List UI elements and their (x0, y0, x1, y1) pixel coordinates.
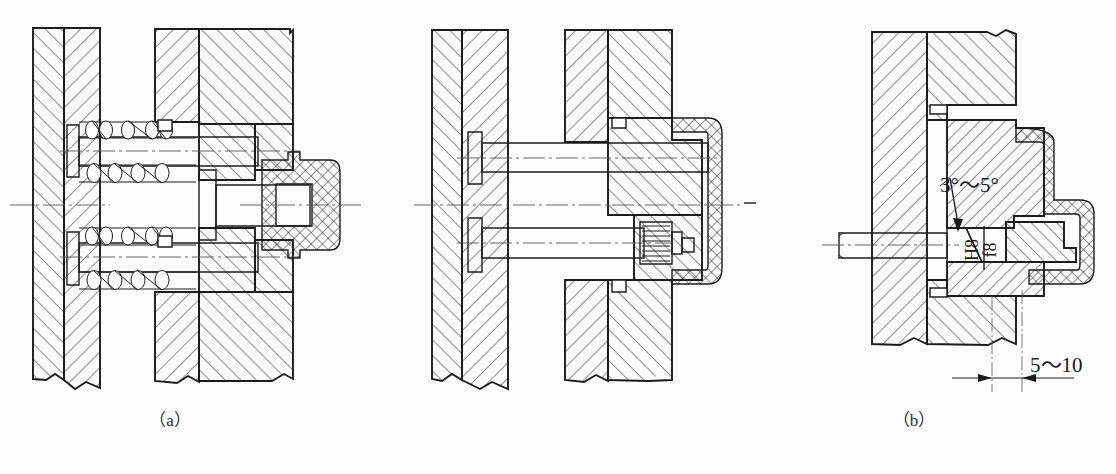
plate-middle-lower-b (565, 280, 608, 382)
plate-middle-lower (155, 292, 199, 383)
figure-panel-b: （b） (372, 0, 744, 474)
fit-lower-label: f8 (980, 243, 1000, 258)
taper-angle-label: 3°～5° (940, 173, 999, 197)
plate-middle-upper-b (565, 30, 608, 142)
panel-a-svg (0, 0, 372, 474)
plate-outer-left (33, 28, 64, 380)
fit-upper-label: H8 (962, 239, 982, 261)
plate-outer-left-b (432, 30, 462, 381)
inner-block-c (1006, 222, 1076, 262)
block-right-middle (199, 124, 255, 292)
block-right-lower (199, 292, 293, 381)
block-right-upper (199, 29, 293, 124)
plate-inner-left-b (462, 30, 508, 389)
drawing-sheet: （a） (0, 0, 1116, 474)
panel-c-svg: 3°～5° H8 f8 5～10 (744, 0, 1116, 474)
plate-left-c (872, 32, 927, 345)
figure-panel-c: 3°～5° H8 f8 5～10 （c） (744, 0, 1116, 474)
plate-inner-left (64, 28, 100, 389)
clearance-label: 5～10 (1030, 353, 1083, 377)
step-notches-c (930, 105, 947, 297)
spring-row-4 (79, 271, 196, 291)
panel-a-caption: （a） (40, 406, 300, 431)
panel-b-svg (372, 0, 744, 474)
plate-middle-upper (155, 29, 199, 122)
figure-panel-a: （a） (0, 0, 372, 474)
block-right-upper-b (608, 30, 672, 118)
block-right-lower-b (608, 280, 672, 381)
